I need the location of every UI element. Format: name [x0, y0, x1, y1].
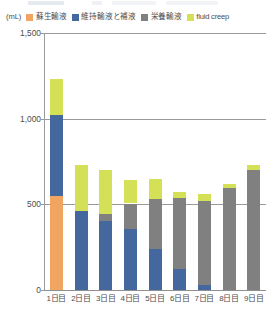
- bar-series-container: [44, 33, 266, 290]
- bar-segment: [198, 285, 211, 290]
- bar-group-day-7[interactable]: [198, 33, 211, 290]
- x-axis-label-day-9: 9日目: [241, 292, 266, 303]
- x-axis-label-day-4: 4日目: [118, 292, 143, 303]
- bar-segment: [247, 165, 260, 170]
- x-axis-label-day-1: 1日目: [44, 292, 69, 303]
- y-tick-label-1000: 1,000: [1, 114, 41, 124]
- bar-segment: [149, 199, 162, 249]
- legend-item-nutrition: 栄養輸液: [141, 12, 182, 22]
- legend-swatch-resuscitation: [26, 14, 33, 21]
- legend-swatch-nutrition: [141, 14, 148, 21]
- legend-swatch-fluid-creep: [187, 14, 194, 21]
- bar-segment: [99, 221, 112, 290]
- bar-segment: [75, 211, 88, 290]
- cropped-header-strip: [0, 0, 272, 8]
- bar-group-day-8[interactable]: [223, 33, 236, 290]
- gridline-0: [44, 290, 266, 291]
- bar-segment: [99, 170, 112, 214]
- bar-segment: [223, 184, 236, 188]
- bar-segment: [124, 204, 137, 230]
- legend-label-resuscitation: 蘇生輸液: [36, 12, 67, 22]
- bar-segment: [173, 269, 186, 290]
- stacked-bar-chart: (mL) 蘇生輸液 維持輸液と補液 栄養輸液 fluid creep 05001…: [0, 0, 272, 321]
- bar-group-day-5[interactable]: [149, 33, 162, 290]
- y-tick-label-0: 0: [1, 285, 41, 295]
- bar-group-day-9[interactable]: [247, 33, 260, 290]
- bar-segment: [99, 214, 112, 222]
- y-tick-label-1500: 1,500: [1, 28, 41, 38]
- x-axis-label-day-6: 6日目: [167, 292, 192, 303]
- bar-group-day-1[interactable]: [50, 33, 63, 290]
- bar-group-day-4[interactable]: [124, 33, 137, 290]
- bar-group-day-3[interactable]: [99, 33, 112, 290]
- bar-segment: [124, 229, 137, 290]
- legend-swatch-maintenance: [72, 14, 79, 21]
- y-axis-ticks: 05001,0001,500: [0, 33, 41, 291]
- legend-label-maintenance: 維持輸液と補液: [81, 12, 136, 22]
- x-axis-label-day-5: 5日目: [143, 292, 168, 303]
- legend-unit-label: (mL): [6, 12, 21, 22]
- bar-segment: [198, 194, 211, 201]
- bar-segment: [173, 198, 186, 268]
- bar-segment: [198, 201, 211, 285]
- legend-item-resuscitation: 蘇生輸液: [26, 12, 67, 22]
- bar-segment: [223, 188, 236, 290]
- legend-item-fluid-creep: fluid creep: [187, 12, 229, 22]
- x-axis-label-day-8: 8日目: [217, 292, 242, 303]
- x-axis-label-day-3: 3日目: [93, 292, 118, 303]
- bar-segment: [149, 179, 162, 200]
- bar-group-day-2[interactable]: [75, 33, 88, 290]
- legend-label-fluid-creep: fluid creep: [196, 12, 229, 22]
- x-axis-label-day-2: 2日目: [69, 292, 94, 303]
- bar-segment: [149, 249, 162, 290]
- bar-segment: [173, 192, 186, 199]
- x-axis-labels: 1日目2日目3日目4日目5日目6日目7日目8日目9日目: [44, 292, 266, 308]
- plot-area: [44, 33, 266, 290]
- chart-legend: (mL) 蘇生輸液 維持輸液と補液 栄養輸液 fluid creep: [6, 10, 272, 24]
- bar-segment: [50, 79, 63, 115]
- legend-item-maintenance: 維持輸液と補液: [72, 12, 136, 22]
- bar-segment: [50, 196, 63, 290]
- bar-group-day-6[interactable]: [173, 33, 186, 290]
- bar-segment: [247, 170, 260, 290]
- bar-segment: [75, 165, 88, 211]
- bar-segment: [124, 180, 137, 204]
- y-tick-label-500: 500: [1, 199, 41, 209]
- bar-segment: [50, 115, 63, 196]
- x-axis-label-day-7: 7日目: [192, 292, 217, 303]
- legend-label-nutrition: 栄養輸液: [151, 12, 182, 22]
